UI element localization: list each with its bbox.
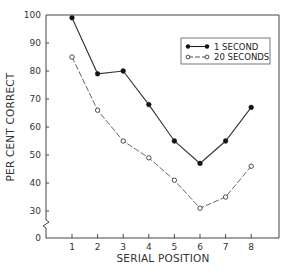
filled-circle-marker [249, 105, 254, 110]
y-tick-label: 70 [30, 94, 42, 104]
axis-break-icon [43, 220, 49, 238]
x-axis-title: SERIAL POSITION [116, 252, 209, 264]
y-tick-label: 50 [30, 150, 42, 160]
filled-circle-marker [70, 15, 75, 20]
x-tick-label: 4 [146, 242, 152, 252]
filled-circle-marker [146, 102, 151, 107]
legend-label-20-seconds: 20 SECONDS [214, 52, 269, 62]
open-circle-marker [70, 55, 74, 59]
legend: 1 SECOND20 SECONDS [181, 38, 270, 64]
x-tick-label: 7 [223, 242, 229, 252]
legend-filled-circle-icon [205, 44, 209, 48]
legend-open-circle-icon [205, 55, 209, 59]
y-tick-label: 90 [30, 38, 42, 48]
open-circle-marker [121, 139, 125, 143]
line-chart: 030405060708090100 12345678 1 SECOND20 S… [0, 0, 289, 274]
x-axis: 12345678 [69, 234, 254, 252]
filled-circle-marker [95, 71, 100, 76]
open-circle-marker [147, 156, 151, 160]
open-circle-marker [249, 164, 253, 168]
filled-circle-marker [223, 139, 228, 144]
legend-filled-circle-icon [186, 44, 190, 48]
legend-open-circle-icon [186, 55, 190, 59]
series-20-seconds [70, 55, 254, 211]
x-tick-label: 5 [172, 242, 178, 252]
x-tick-label: 3 [120, 242, 126, 252]
y-tick-label: 30 [30, 206, 42, 216]
y-tick-label: 0 [35, 233, 41, 243]
y-tick-label: 100 [24, 10, 41, 20]
filled-circle-marker [198, 161, 203, 166]
y-axis-title: PER CENT CORRECT [4, 72, 16, 181]
y-tick-label: 60 [30, 122, 42, 132]
y-tick-label: 80 [30, 66, 42, 76]
x-tick-label: 1 [69, 242, 75, 252]
x-tick-label: 8 [248, 242, 254, 252]
open-circle-marker [198, 206, 202, 210]
open-circle-marker [95, 108, 99, 112]
series-line [72, 57, 251, 208]
legend-label-1-second: 1 SECOND [214, 42, 259, 52]
x-tick-label: 6 [197, 242, 203, 252]
x-tick-label: 2 [95, 242, 101, 252]
open-circle-marker [172, 178, 176, 182]
y-tick-label: 40 [30, 178, 42, 188]
filled-circle-marker [121, 69, 126, 74]
open-circle-marker [223, 195, 227, 199]
y-axis: 030405060708090100 [24, 10, 49, 243]
filled-circle-marker [172, 139, 177, 144]
